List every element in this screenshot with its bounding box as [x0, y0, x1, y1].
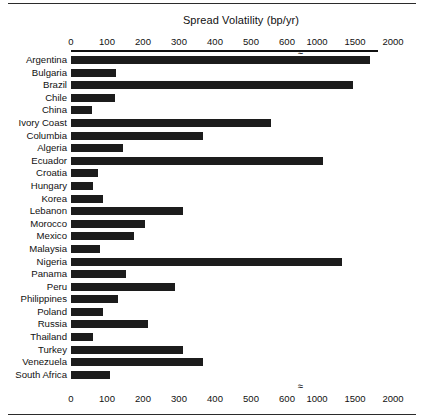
- bar-category-label: Russia: [0, 318, 67, 331]
- bar-category-label: Peru: [0, 281, 67, 294]
- bar-category-label: Columbia: [0, 130, 67, 143]
- bar-row: Philippines: [0, 293, 424, 306]
- bar-category-label: Korea: [0, 193, 67, 206]
- x-tick-label: 100: [99, 36, 115, 47]
- x-tick-label: 400: [207, 393, 223, 404]
- bar-category-label: China: [0, 104, 67, 117]
- bar-category-label: Brazil: [0, 79, 67, 92]
- bar: [71, 245, 100, 253]
- bar-row: Venezuela: [0, 356, 424, 369]
- bar: [71, 207, 183, 215]
- bar-category-label: Lebanon: [0, 205, 67, 218]
- bar-category-label: Philippines: [0, 293, 67, 306]
- x-tick-label: 200: [135, 36, 151, 47]
- bar-row: Algeria: [0, 142, 424, 155]
- bar-row: Ivory Coast: [0, 117, 424, 130]
- bar: [71, 119, 271, 127]
- bar-category-label: Poland: [0, 306, 67, 319]
- bar: [71, 232, 134, 240]
- bar: [71, 182, 93, 190]
- bar: [71, 106, 92, 114]
- bar-category-label: Chile: [0, 92, 67, 105]
- bar: [71, 333, 93, 341]
- bar: [71, 258, 342, 266]
- bar-category-label: South Africa: [0, 369, 67, 382]
- x-axis-line: [71, 50, 378, 52]
- x-tick-label: 0: [68, 393, 73, 404]
- bar-category-label: Venezuela: [0, 356, 67, 369]
- x-tick-label: 1000: [306, 393, 327, 404]
- x-tick-label: 1500: [344, 393, 365, 404]
- bar-category-label: Ivory Coast: [0, 117, 67, 130]
- bar-row: Korea: [0, 193, 424, 206]
- bar-row: Brazil: [0, 79, 424, 92]
- bar-row: Poland: [0, 306, 424, 319]
- bar-row: Turkey: [0, 344, 424, 357]
- figure-container: Spread Volatility (bp/yr) 01002003004005…: [0, 0, 424, 419]
- bar-category-label: Algeria: [0, 142, 67, 155]
- bottom-x-axis: 0100200300400500600100015002000: [0, 393, 424, 407]
- bar-category-label: Hungary: [0, 180, 67, 193]
- x-tick-label: 1000: [306, 36, 327, 47]
- bar-category-label: Mexico: [0, 230, 67, 243]
- bar-category-label: Nigeria: [0, 256, 67, 269]
- bar-category-label: Argentina: [0, 54, 67, 67]
- x-tick-label: 600: [279, 393, 295, 404]
- bar-row: Croatia: [0, 167, 424, 180]
- bar-category-label: Croatia: [0, 167, 67, 180]
- bar-row: Hungary: [0, 180, 424, 193]
- bar: [71, 69, 116, 77]
- bar-row: Lebanon: [0, 205, 424, 218]
- bar-row: Morocco: [0, 218, 424, 231]
- x-tick-label: 2000: [382, 393, 403, 404]
- bar: [71, 56, 370, 64]
- bar: [71, 144, 123, 152]
- bar: [71, 358, 203, 366]
- bar: [71, 94, 115, 102]
- bar-row: Malaysia: [0, 243, 424, 256]
- bar-row: Chile: [0, 92, 424, 105]
- x-tick-label: 400: [207, 36, 223, 47]
- x-tick-label: 300: [171, 393, 187, 404]
- bottom-divider-rule: [8, 414, 416, 415]
- x-tick-label: 200: [135, 393, 151, 404]
- bar: [71, 195, 103, 203]
- bar: [71, 308, 103, 316]
- top-divider-rule: [8, 3, 416, 4]
- bar-category-label: Panama: [0, 268, 67, 281]
- bar-row: South Africa: [0, 369, 424, 382]
- axis-break-icon-bottom: ≈: [298, 381, 302, 392]
- bars-plot-area: ArgentinaBulgariaBrazilChileChinaIvory C…: [0, 54, 424, 390]
- bar-category-label: Bulgaria: [0, 67, 67, 80]
- x-tick-label: 300: [171, 36, 187, 47]
- bar: [71, 295, 118, 303]
- bar-row: Argentina: [0, 54, 424, 67]
- bar-category-label: Ecuador: [0, 155, 67, 168]
- x-tick-label: 500: [243, 393, 259, 404]
- bar: [71, 320, 148, 328]
- x-tick-label: 100: [99, 393, 115, 404]
- chart-title: Spread Volatility (bp/yr): [71, 14, 411, 26]
- bar: [71, 169, 98, 177]
- bar-category-label: Morocco: [0, 218, 67, 231]
- x-tick-label: 1500: [344, 36, 365, 47]
- bar-row: Nigeria: [0, 256, 424, 269]
- bar: [71, 81, 353, 89]
- x-tick-label: 500: [243, 36, 259, 47]
- bar: [71, 220, 145, 228]
- x-tick-label: 600: [279, 36, 295, 47]
- bar-category-label: Malaysia: [0, 243, 67, 256]
- x-tick-label: 2000: [382, 36, 403, 47]
- bar-row: Bulgaria: [0, 67, 424, 80]
- bar-row: Panama: [0, 268, 424, 281]
- bar-category-label: Turkey: [0, 344, 67, 357]
- bar-category-label: Thailand: [0, 331, 67, 344]
- bar-row: Ecuador: [0, 155, 424, 168]
- bar: [71, 270, 126, 278]
- bar: [71, 346, 183, 354]
- bar-row: Russia: [0, 318, 424, 331]
- bar-row: Mexico: [0, 230, 424, 243]
- bar-row: Peru: [0, 281, 424, 294]
- bar: [71, 157, 323, 165]
- bar-row: Thailand: [0, 331, 424, 344]
